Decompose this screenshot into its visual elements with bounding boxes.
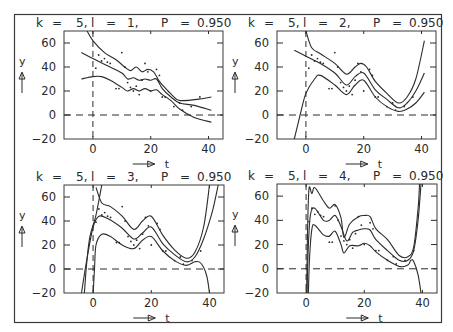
data-point: [354, 79, 356, 81]
data-point: [199, 96, 201, 98]
figure: k=5,l=1,P=0.9506040200−2002040yt k=5,l=2…: [0, 0, 453, 332]
data-point: [331, 88, 333, 90]
l-label: l: [91, 16, 94, 30]
p-label: P: [373, 169, 380, 183]
curve-upper: [307, 184, 420, 293]
data-point: [101, 60, 103, 62]
x-tick-label: 40: [201, 142, 216, 156]
p-value: 0.950: [409, 169, 443, 183]
data-point: [308, 67, 310, 69]
data-point: [200, 250, 202, 252]
panel-l4: k=5,l=4,P=0.9506040200−2002040yt: [232, 169, 443, 325]
p-value: 0.950: [409, 16, 443, 30]
data-point: [159, 229, 161, 231]
curve-fit: [82, 185, 219, 293]
data-point: [334, 52, 336, 54]
data-point: [346, 244, 348, 246]
k-value: 5,: [288, 16, 299, 30]
k-value: 5,: [76, 16, 87, 30]
data-point: [132, 90, 134, 92]
l-value: 2,: [339, 16, 350, 30]
data-point: [377, 96, 379, 98]
data-point: [141, 79, 143, 81]
data-point: [133, 244, 135, 246]
x-arrow-icon: [346, 315, 368, 321]
data-point: [363, 90, 365, 92]
data-point: [147, 71, 149, 73]
y-tick-label: 20: [254, 84, 269, 98]
p-label: P: [373, 16, 380, 30]
x-tick-label: 40: [415, 296, 430, 310]
data-point: [179, 102, 181, 104]
data-point: [311, 207, 313, 209]
data-point: [404, 259, 406, 261]
data-point: [144, 63, 146, 65]
l-label: l: [303, 169, 306, 183]
k-label: k: [248, 16, 255, 30]
x-arrow-icon: [346, 161, 368, 167]
data-point: [150, 90, 152, 92]
data-point: [378, 250, 380, 252]
data-point: [317, 211, 319, 213]
data-point: [156, 69, 158, 71]
plot-area: [64, 31, 223, 139]
data-point: [328, 241, 330, 243]
data-point: [337, 219, 339, 221]
x-tick-label: 40: [202, 296, 217, 310]
panel-header: k=5,l=1,P=0.950: [36, 16, 231, 30]
data-point: [191, 260, 193, 262]
y-tick-label: −20: [32, 132, 56, 146]
data-point: [124, 220, 126, 222]
data-point: [106, 61, 108, 63]
x-tick-label: 0: [302, 296, 309, 310]
data-point: [130, 87, 132, 89]
data-point: [392, 256, 394, 258]
data-point: [360, 71, 362, 73]
data-point: [115, 242, 117, 244]
curve-lower: [93, 234, 209, 293]
y-tick-label: 40: [254, 60, 269, 74]
data-point: [156, 223, 158, 225]
equals-sign: =: [180, 170, 190, 184]
data-point: [412, 96, 414, 98]
y-axis-label: y: [19, 209, 26, 222]
y-tick-label: 0: [49, 262, 56, 276]
data-point: [121, 52, 123, 54]
data-point: [109, 63, 111, 65]
data-point: [322, 63, 324, 65]
data-point: [150, 244, 152, 246]
data-point: [139, 248, 141, 250]
equals-sign: =: [318, 16, 328, 30]
data-point: [182, 109, 184, 111]
data-point: [136, 239, 138, 241]
data-point: [164, 96, 166, 98]
equals-sign: =: [318, 169, 328, 183]
data-point: [369, 69, 371, 71]
data-point: [319, 61, 321, 63]
data-point: [360, 224, 362, 226]
data-point: [351, 94, 353, 96]
data-point: [340, 235, 342, 237]
plot-area: [277, 31, 436, 139]
panel-l2: k=5,l=2,P=0.9506040200−2002040yt: [232, 16, 443, 171]
data-point: [311, 54, 313, 56]
x-arrow-icon: [133, 315, 155, 321]
data-point: [355, 233, 357, 235]
data-point: [138, 94, 140, 96]
x-arrow-icon: [133, 161, 155, 167]
x-axis-label: t: [378, 312, 383, 325]
data-point: [182, 263, 184, 265]
data-point: [323, 216, 325, 218]
data-point: [372, 75, 374, 77]
data-point: [375, 250, 377, 252]
y-arrow-icon: [19, 226, 25, 247]
y-axis-label: y: [232, 55, 239, 68]
y-tick-label: −20: [32, 286, 56, 300]
equals-sign: =: [52, 170, 62, 184]
data-point: [101, 214, 103, 216]
x-tick-label: 0: [89, 142, 96, 156]
data-point: [328, 88, 330, 90]
data-point: [174, 260, 176, 262]
data-point: [349, 239, 351, 241]
k-label: k: [36, 16, 43, 30]
